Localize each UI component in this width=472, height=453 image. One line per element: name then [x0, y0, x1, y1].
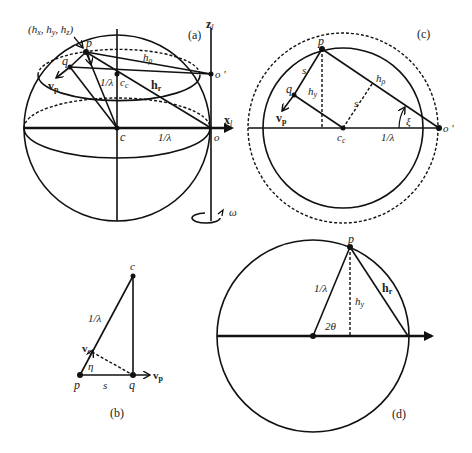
- omega-rotation: [192, 213, 220, 223]
- label-inv-lambda-axis: 1/λ: [158, 131, 172, 143]
- label-vp-c: vp: [276, 111, 287, 126]
- label-p-d: p: [347, 232, 354, 246]
- point-o-prime: [209, 72, 214, 77]
- vp-arrow: [56, 67, 70, 78]
- point-q: [68, 65, 73, 70]
- label-p: p: [85, 36, 92, 50]
- label-vp-b: vp: [153, 369, 164, 383]
- panel-d: p 1/λ hy hr 2θ (d): [217, 232, 432, 432]
- label-o-prime: o ': [215, 68, 226, 80]
- label-hy-d: hy: [355, 295, 365, 309]
- label-two-theta-d: 2θ: [325, 320, 337, 332]
- label-h-rho: hρ: [143, 51, 153, 65]
- label-oprime-c: o ': [443, 122, 454, 134]
- label-z-axis: zl: [206, 17, 214, 32]
- point-q-c: [292, 93, 297, 98]
- panel-b: c 1/λ vc η p s q vp (b): [73, 260, 164, 420]
- panel-c: p s q hy vp cc s hρ ξ 1/λ o ' (c): [248, 27, 454, 223]
- label-cc-c: cc: [337, 131, 346, 145]
- label-o: o: [214, 131, 220, 143]
- label-hr: hr: [151, 78, 162, 93]
- label-s-dashed-c: s: [354, 97, 358, 109]
- label-inv-lambda-c: 1/λ: [381, 131, 395, 143]
- figure-canvas: (hx, hy, hz) p q vp hρ 1/λ cc hr c 1/λ o…: [0, 0, 472, 453]
- label-inv-lambda-d: 1/λ: [314, 282, 328, 294]
- label-inv-lambda-vertical: 1/λ: [100, 76, 114, 88]
- xi-arc: [399, 107, 405, 128]
- panel-label-d: (d): [392, 407, 406, 421]
- point-oprime-c: [436, 125, 442, 131]
- point-center-d: [310, 333, 316, 339]
- label-q: q: [62, 54, 68, 68]
- panel-label-c: (c): [417, 27, 430, 41]
- label-vc-b: vc: [82, 342, 92, 356]
- label-xi-c: ξ: [406, 115, 411, 128]
- label-eta-b: η: [88, 360, 93, 372]
- label-inv-lambda-b: 1/λ: [88, 312, 102, 324]
- label-h-rho-c: hρ: [376, 72, 386, 86]
- panel-a: (hx, hy, hz) p q vp hρ 1/λ cc hr c 1/λ o…: [24, 17, 237, 223]
- label-hr-d: hr: [382, 281, 393, 296]
- label-hy-c: hy: [308, 85, 318, 99]
- label-c: c: [120, 130, 126, 144]
- point-cc-c: [341, 126, 346, 131]
- label-x-axis: xl: [224, 113, 233, 128]
- label-p-c: p: [317, 34, 324, 48]
- label-s-upper-c: s: [302, 64, 306, 76]
- point-c-b: [131, 274, 136, 279]
- label-h-coords: (hx, hy, hz): [28, 23, 73, 37]
- label-vp: vp: [48, 79, 59, 94]
- section-circle-front: [38, 75, 200, 101]
- label-q-c: q: [286, 82, 292, 96]
- label-q-b: q: [129, 378, 135, 392]
- q-to-cc-c: [294, 95, 343, 128]
- label-c-b: c: [130, 260, 135, 272]
- p-to-oprime-c: [322, 49, 439, 128]
- label-p-b: p: [73, 378, 80, 392]
- p-to-end-d: [350, 247, 408, 336]
- point-cc: [115, 72, 120, 77]
- panel-label-a: (a): [188, 28, 201, 42]
- vc-dashed-b: [92, 352, 133, 375]
- label-s-b: s: [103, 379, 107, 391]
- label-omega: ω: [229, 206, 237, 218]
- vp-arrow-c: [282, 95, 294, 111]
- panel-label-b: (b): [110, 406, 124, 420]
- point-c: [115, 126, 120, 131]
